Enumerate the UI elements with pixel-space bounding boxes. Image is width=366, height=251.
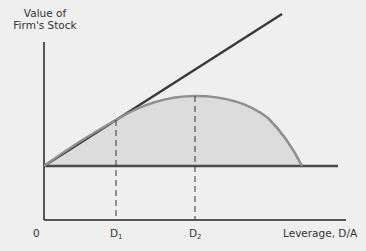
- y-axis-label: Value of Firm's Stock: [4, 7, 86, 31]
- y-axis-label-line2: Firm's Stock: [4, 19, 86, 31]
- chart-canvas: [0, 0, 366, 251]
- d2-label: D2: [189, 227, 202, 241]
- shaded-area: [44, 96, 302, 166]
- x-axis-label: Leverage, D/A: [283, 227, 357, 239]
- d1-label: D1: [110, 227, 123, 241]
- y-axis-label-line1: Value of: [4, 7, 86, 19]
- origin-label: 0: [33, 227, 40, 239]
